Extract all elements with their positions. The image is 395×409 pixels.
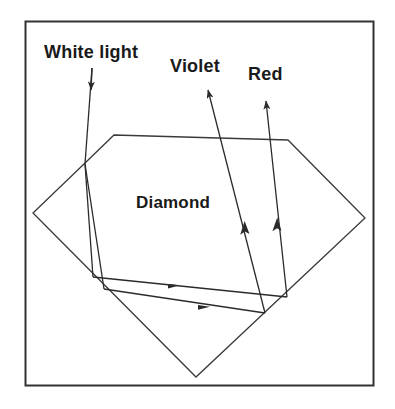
label-white-light: White light [44, 42, 138, 63]
label-red: Red [248, 64, 283, 85]
ray-diagram-figure: White light Violet Red Diamond [0, 0, 395, 409]
label-diamond: Diamond [136, 193, 210, 213]
label-violet: Violet [170, 56, 220, 77]
